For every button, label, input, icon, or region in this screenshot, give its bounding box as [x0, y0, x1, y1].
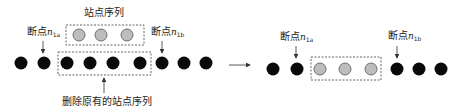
station-node — [95, 29, 107, 41]
route-node — [156, 57, 169, 70]
route-node — [391, 63, 404, 76]
station-sequence-label: 站点序列 — [84, 8, 124, 18]
route-node — [84, 57, 97, 70]
route-node — [38, 57, 51, 70]
route-node — [107, 57, 120, 70]
route-node — [178, 57, 191, 70]
breakpoint-label-n1b-right: 断点n1b — [388, 31, 421, 42]
station-node — [121, 29, 133, 41]
route-node — [267, 63, 280, 76]
diagram: 站点序列 删除原有的站点序列 断点n1a 断点n1b 断点n1a 断点n1b — [0, 0, 459, 112]
route-node — [291, 63, 304, 76]
breakpoint-label-n1a-left: 断点n1a — [27, 27, 60, 38]
delete-sequence-label: 删除原有的站点序列 — [62, 97, 152, 107]
route-node — [61, 57, 74, 70]
station-node — [365, 63, 377, 75]
route-node — [435, 63, 448, 76]
breakpoint-label-n1b-left: 断点n1b — [151, 27, 184, 38]
station-node — [73, 29, 85, 41]
route-node — [413, 63, 426, 76]
breakpoint-label-n1a-right: 断点n1a — [280, 32, 313, 43]
route-node — [134, 57, 147, 70]
route-node — [15, 57, 28, 70]
station-node — [314, 63, 326, 75]
route-node — [200, 57, 213, 70]
station-node — [339, 63, 351, 75]
